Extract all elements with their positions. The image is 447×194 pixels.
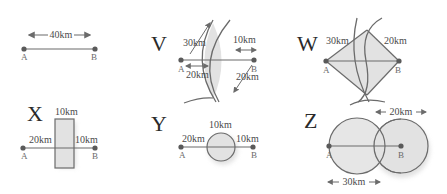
point-a-label: A <box>178 64 185 74</box>
right-label: 10km <box>236 133 259 144</box>
point-b <box>250 144 255 149</box>
diameter-label: 10km <box>209 119 232 130</box>
left-label: 20km <box>29 134 52 145</box>
panel-y: Y 10km 20km 10km A B <box>151 98 259 165</box>
point-a <box>178 57 183 62</box>
panel-z: Z 20km 30km A B <box>304 100 430 188</box>
point-a-label: A <box>21 52 28 62</box>
right-label: 10km <box>75 134 98 145</box>
left-label: 20km <box>182 133 205 144</box>
point-a-label: A <box>323 65 330 75</box>
arc-fragment <box>184 98 213 103</box>
point-b-label: B <box>91 52 97 62</box>
point-b <box>92 145 97 150</box>
point-b-label: B <box>251 64 257 74</box>
point-a <box>21 46 26 51</box>
point-b <box>251 57 256 62</box>
barrier-rect <box>55 119 74 168</box>
panel-x: X 10km 20km 10km A B <box>20 101 98 168</box>
panel-label: V <box>151 31 167 56</box>
radius-a-label: 30km <box>326 35 349 46</box>
panel-label: Z <box>304 108 317 133</box>
point-a-label: A <box>21 151 28 161</box>
panel-label: W <box>297 31 318 56</box>
arc-fragment <box>350 100 385 105</box>
panel-v: V 30km 10km 20km 20km A B <box>151 20 259 102</box>
point-b-label: B <box>92 151 98 161</box>
radius-a-label: 30km <box>343 176 366 187</box>
panel-plain: 40km A B <box>21 29 98 62</box>
panel-label: Y <box>151 111 167 136</box>
width-label: 10km <box>55 106 78 117</box>
point-a <box>323 58 328 63</box>
radius-b-label: 20km <box>390 106 413 117</box>
point-a <box>326 143 331 148</box>
point-b <box>398 143 403 148</box>
point-b <box>92 46 97 51</box>
gap-a-label: 20km <box>186 69 209 80</box>
panel-w: W 30km 20km A B <box>297 18 407 102</box>
point-b-label: B <box>395 65 401 75</box>
radius-b-arrow-label: 10km <box>233 34 256 45</box>
distance-label: 40km <box>50 29 73 40</box>
map-diagram: 40km A B V 30km 10km 20km 20km A B W <box>0 0 447 194</box>
radius-b-label: 20km <box>384 35 407 46</box>
point-b-label: B <box>251 150 257 160</box>
panel-label: X <box>27 101 43 126</box>
point-a <box>20 145 25 150</box>
point-a-label: A <box>326 150 333 160</box>
point-a <box>178 144 183 149</box>
point-a-label: A <box>179 150 186 160</box>
radius-a-label: 30km <box>183 37 206 48</box>
point-b-label: B <box>398 150 404 160</box>
point-b <box>396 58 401 63</box>
